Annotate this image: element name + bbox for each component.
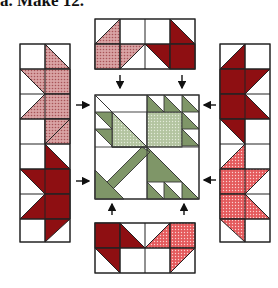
center-flower-block xyxy=(95,95,199,199)
bottom-unit xyxy=(95,223,195,273)
left-unit xyxy=(20,44,70,242)
top-unit xyxy=(95,19,195,69)
quilt-assembly-diagram xyxy=(0,0,278,288)
right-unit xyxy=(220,44,270,242)
